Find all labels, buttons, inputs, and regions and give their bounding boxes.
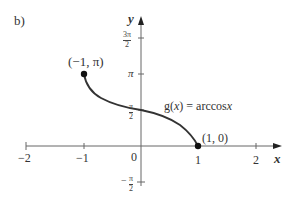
- point-label-left: (−1, π): [68, 55, 104, 68]
- endpoint-right: [195, 143, 201, 149]
- origin-label: 0: [131, 151, 137, 163]
- x-tick-label-m2: −2: [18, 152, 31, 164]
- plot-area: [0, 0, 293, 197]
- function-label: g(x) = arccosx: [164, 100, 232, 112]
- x-axis-label: x: [274, 152, 281, 165]
- x-tick-label-1: 1: [195, 154, 201, 166]
- point-label-right: (1, 0): [202, 132, 228, 144]
- x-tick-label-2: 2: [253, 154, 259, 166]
- endpoint-left: [81, 71, 87, 77]
- y-tick-label-pi-2: π 2: [129, 103, 133, 121]
- y-tick-label-3pi-2: 3π 2: [123, 31, 131, 49]
- y-tick-label-neg-pi-2: π 2: [129, 175, 133, 193]
- y-axis-arrow-icon: [138, 16, 144, 25]
- y-axis-label: y: [128, 12, 134, 25]
- y-tick-neg-sign: −: [121, 176, 127, 186]
- x-tick-label-m1: −1: [76, 152, 89, 164]
- x-axis-arrow-icon: [273, 143, 282, 149]
- y-tick-label-pi: π: [128, 68, 134, 79]
